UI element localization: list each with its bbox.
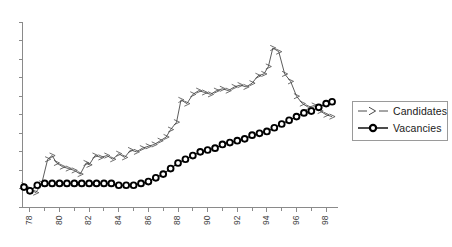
vacancies-data-point: [316, 104, 322, 110]
vacancies-data-point: [249, 132, 255, 138]
vacancies-data-point: [79, 180, 85, 186]
x-axis-tick-labels: 7880828486889092949698: [24, 215, 330, 225]
vacancies-data-point: [138, 180, 144, 186]
vacancies-data-point: [94, 180, 100, 186]
vacancies-data-point: [86, 180, 92, 186]
vacancies-data-point: [242, 136, 248, 142]
vacancies-data-point: [190, 153, 196, 159]
vacancies-data-point: [108, 180, 114, 186]
vacancies-data-point: [234, 138, 240, 144]
vacancies-data-point: [175, 160, 181, 166]
vacancies-data-point: [220, 142, 226, 148]
x-tick-label: 86: [143, 215, 153, 225]
vacancies-data-point: [257, 130, 263, 136]
vacancies-data-point: [301, 110, 307, 116]
vacancies-data-point: [205, 147, 211, 153]
vacancies-data-point: [271, 125, 277, 131]
vacancies-data-point: [197, 149, 203, 155]
vacancies-data-point: [21, 184, 27, 190]
vacancies-data-point: [49, 180, 55, 186]
legend-item-vacancies: Vacancies: [353, 119, 447, 136]
vacancies-data-point: [101, 180, 107, 186]
chart-legend: Candidates Vacancies: [352, 101, 448, 141]
vacancies-data-point: [153, 175, 159, 181]
vacancies-data-point: [42, 180, 48, 186]
vacancies-data-point: [27, 188, 33, 194]
x-tick-label: 88: [172, 215, 182, 225]
line-chart: 7880828486889092949698 Candidates Vacanc: [0, 0, 452, 247]
vacancies-data-point: [146, 179, 152, 185]
vacancies-data-point: [160, 171, 166, 177]
vacancies-data-point: [34, 182, 40, 188]
vacancies-data-point: [294, 114, 300, 120]
vacancies-data-point: [329, 99, 335, 105]
legend-item-candidates: Candidates: [353, 102, 447, 119]
y-axis: [19, 22, 23, 208]
vacancies-data-point: [131, 182, 137, 188]
vacancies-data-point: [227, 140, 233, 146]
x-tick-label: 84: [113, 215, 123, 225]
x-tick-label: 90: [202, 215, 212, 225]
x-tick-label: 92: [232, 215, 242, 225]
vacancies-data-point: [64, 180, 70, 186]
legend-label-candidates: Candidates: [393, 105, 447, 117]
vacancies-data-point: [123, 182, 129, 188]
legend-label-vacancies: Vacancies: [393, 122, 442, 134]
vacancies-data-point: [57, 180, 63, 186]
x-axis-ticks: [30, 208, 326, 213]
vacancies-data-point: [286, 117, 292, 123]
x-tick-label: 78: [24, 215, 34, 225]
vacancies-legend-marker-icon: [358, 121, 388, 135]
vacancies-data-point: [264, 129, 270, 135]
candidates-legend-marker-icon: [358, 104, 388, 118]
x-tick-label: 94: [261, 215, 271, 225]
vacancies-data-point: [168, 166, 174, 172]
vacancies-data-point: [279, 121, 285, 127]
x-tick-label: 96: [291, 215, 301, 225]
x-tick-label: 82: [83, 215, 93, 225]
vacancies-data-point: [323, 101, 329, 107]
candidates-data-point: [329, 114, 335, 119]
vacancies-data-point: [116, 182, 122, 188]
x-tick-label: 98: [320, 215, 330, 225]
vacancies-data-point: [308, 108, 314, 114]
x-axis: 7880828486889092949698: [23, 208, 339, 225]
vacancies-data-point: [183, 156, 189, 162]
x-tick-label: 80: [54, 215, 64, 225]
vacancies-data-point: [71, 180, 77, 186]
vacancies-data-point: [212, 145, 218, 151]
